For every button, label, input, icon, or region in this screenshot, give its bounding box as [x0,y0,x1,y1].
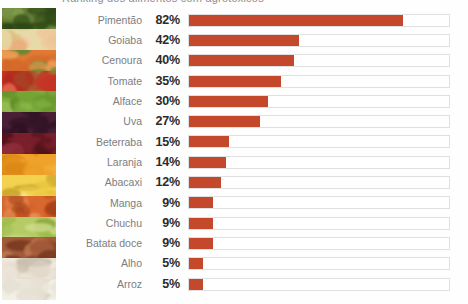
category-label: Laranja [56,157,142,168]
category-label: Tomate [56,76,142,87]
category-label: Goiaba [56,35,142,46]
category-label: Manga [56,198,142,209]
bar-fill [188,54,294,67]
bar-track [188,34,450,47]
bar-fill [188,75,281,88]
bar-fill [188,95,268,108]
value-label: 82% [142,14,188,27]
food-band-alho [2,258,56,279]
value-label: 9% [142,197,188,210]
category-label: Batata doce [56,238,142,249]
category-label: Chuchu [56,218,142,229]
food-band-manga [2,196,56,217]
value-label: 12% [142,176,188,189]
bar-fill [188,257,203,270]
bar-fill [188,14,403,27]
chart-row: Pimentão82% [56,10,464,30]
food-band-abacaxi [2,175,56,196]
chart-row: Abacaxi12% [56,172,464,192]
category-label: Arroz [56,279,142,290]
chart-row: Cenoura40% [56,51,464,71]
value-label: 40% [142,54,188,67]
chart-row: Chuchu9% [56,213,464,233]
category-label: Abacaxi [56,177,142,188]
food-band-batata-doce [2,237,56,258]
bar-track [188,278,450,291]
chart-row: Goiaba42% [56,30,464,50]
food-band-chuchu [2,217,56,238]
bar-fill [188,156,226,169]
bar-fill [188,34,299,47]
bar-track [188,75,450,88]
value-label: 9% [142,237,188,250]
food-photo-strip [2,8,56,300]
bar-chart-rows: Pimentão82%Goiaba42%Cenoura40%Tomate35%A… [56,10,464,300]
food-band-arroz [2,279,56,300]
food-band-tomate [2,71,56,92]
food-band-uva [2,112,56,133]
bar-fill [188,176,221,189]
bar-fill [188,217,213,230]
chart-row: Manga9% [56,193,464,213]
bar-track [188,54,450,67]
category-label: Alho [56,258,142,269]
value-label: 14% [142,156,188,169]
bar-track [188,156,450,169]
food-band-goiaba [2,29,56,50]
category-label: Uva [56,116,142,127]
clipped-title-row: Ranking dos alimentos com agrotóxicos [0,0,468,6]
chart-row: Alho5% [56,254,464,274]
food-band-pimentao [2,8,56,29]
chart-row: Beterraba15% [56,132,464,152]
value-label: 5% [142,278,188,291]
bar-fill [188,135,229,148]
food-band-beterraba [2,133,56,154]
category-label: Beterraba [56,137,142,148]
chart-row: Batata doce9% [56,233,464,253]
bar-track [188,176,450,189]
category-label: Pimentão [56,15,142,26]
chart-row: Laranja14% [56,152,464,172]
bar-track [188,95,450,108]
value-label: 15% [142,136,188,149]
chart-row: Tomate35% [56,71,464,91]
food-band-cenoura [2,50,56,71]
food-band-alface [2,91,56,112]
chart-row: Alface30% [56,91,464,111]
value-label: 42% [142,34,188,47]
bar-fill [188,115,260,128]
chart-row: Uva27% [56,111,464,131]
value-label: 27% [142,115,188,128]
bar-fill [188,196,213,209]
category-label: Cenoura [56,55,142,66]
bar-track [188,217,450,230]
bar-track [188,14,450,27]
bar-track [188,237,450,250]
bar-fill [188,278,203,291]
value-label: 30% [142,95,188,108]
bar-track [188,135,450,148]
chart-row: Arroz5% [56,274,464,294]
value-label: 35% [142,75,188,88]
bar-track [188,257,450,270]
value-label: 5% [142,257,188,270]
food-band-laranja [2,154,56,175]
infographic-chart-panel: Ranking dos alimentos com agrotóxicos Pi… [0,0,468,304]
clipped-title-text: Ranking dos alimentos com agrotóxicos [0,0,468,4]
bar-fill [188,237,213,250]
category-label: Alface [56,96,142,107]
value-label: 9% [142,217,188,230]
bar-track [188,115,450,128]
bar-track [188,196,450,209]
